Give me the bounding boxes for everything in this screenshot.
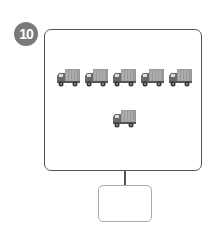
truck-icon (56, 67, 81, 87)
picture-frame (44, 29, 202, 171)
truck-icon (140, 67, 165, 87)
connector-line (124, 171, 126, 185)
answer-box[interactable] (98, 185, 152, 222)
question-number-badge: 10 (14, 22, 38, 46)
truck-row-2 (112, 108, 137, 128)
truck-row-1 (56, 67, 193, 87)
truck-icon (112, 67, 137, 87)
truck-icon (84, 67, 109, 87)
truck-icon (168, 67, 193, 87)
truck-icon (112, 108, 137, 128)
